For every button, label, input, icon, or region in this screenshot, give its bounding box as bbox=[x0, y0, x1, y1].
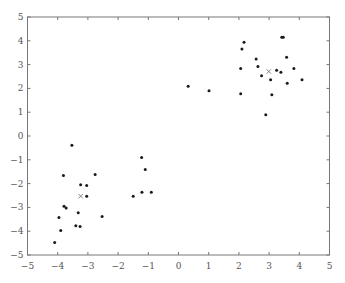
data-points bbox=[53, 36, 303, 244]
data-point bbox=[243, 41, 246, 44]
y-tick-label: −2 bbox=[10, 179, 23, 189]
x-tick-label: 2 bbox=[236, 261, 242, 271]
data-point bbox=[85, 195, 88, 198]
data-point bbox=[79, 183, 82, 186]
y-tick-label: −5 bbox=[10, 250, 24, 260]
y-axis-tick-labels: −5−4−3−2−1012345 bbox=[10, 12, 24, 260]
data-point bbox=[239, 92, 242, 95]
data-point bbox=[264, 113, 267, 116]
data-point bbox=[140, 156, 143, 159]
data-point bbox=[240, 47, 243, 50]
data-point bbox=[77, 211, 80, 214]
x-tick-label: 1 bbox=[206, 261, 212, 271]
y-tick-label: 3 bbox=[18, 60, 24, 70]
data-point bbox=[239, 67, 242, 70]
centroid-x-icon bbox=[78, 194, 82, 198]
y-tick-label: 1 bbox=[18, 107, 24, 117]
data-point bbox=[70, 144, 73, 147]
data-point bbox=[255, 57, 258, 60]
centroid-x-icon bbox=[267, 69, 271, 73]
x-tick-label: 4 bbox=[296, 261, 302, 271]
data-point bbox=[208, 89, 211, 92]
y-tick-label: 0 bbox=[18, 131, 24, 141]
y-tick-label: 2 bbox=[18, 83, 24, 93]
data-point bbox=[279, 71, 282, 74]
data-point bbox=[62, 174, 65, 177]
x-tick-label: −2 bbox=[111, 261, 124, 271]
data-point bbox=[286, 82, 289, 85]
x-tick-label: 3 bbox=[266, 261, 272, 271]
data-point bbox=[53, 241, 56, 244]
data-point bbox=[301, 78, 304, 81]
data-point bbox=[282, 36, 285, 39]
data-point bbox=[74, 224, 77, 227]
y-tick-label: 5 bbox=[18, 12, 24, 22]
data-point bbox=[260, 74, 263, 77]
y-tick-label: −4 bbox=[10, 226, 24, 236]
x-axis-tick-labels: −5−4−3−2−1012345 bbox=[21, 261, 333, 271]
centroid-markers bbox=[78, 69, 271, 198]
x-tick-label: 5 bbox=[327, 261, 333, 271]
data-point bbox=[144, 168, 147, 171]
data-point bbox=[79, 225, 82, 228]
data-point bbox=[65, 206, 68, 209]
data-point bbox=[285, 56, 288, 59]
y-tick-label: 4 bbox=[18, 36, 24, 46]
data-point bbox=[292, 67, 295, 70]
scatter-chart: −5−4−3−2−1012345 −5−4−3−2−1012345 bbox=[0, 0, 345, 283]
plot-frame bbox=[28, 17, 330, 255]
x-tick-label: 0 bbox=[176, 261, 182, 271]
data-point bbox=[256, 65, 259, 68]
data-point bbox=[150, 191, 153, 194]
x-tick-label: −1 bbox=[142, 261, 155, 271]
data-point bbox=[269, 78, 272, 81]
x-tick-label: −3 bbox=[81, 261, 95, 271]
y-tick-label: −3 bbox=[10, 202, 24, 212]
y-tick-label: −1 bbox=[10, 155, 23, 165]
x-tick-label: −5 bbox=[21, 261, 35, 271]
data-point bbox=[270, 93, 273, 96]
data-point bbox=[57, 216, 60, 219]
data-point bbox=[187, 85, 190, 88]
data-point bbox=[85, 184, 88, 187]
data-point bbox=[132, 195, 135, 198]
data-point bbox=[275, 69, 278, 72]
data-point bbox=[140, 191, 143, 194]
x-tick-label: −4 bbox=[51, 261, 65, 271]
data-point bbox=[94, 173, 97, 176]
data-point bbox=[101, 215, 104, 218]
axis-ticks bbox=[28, 17, 330, 255]
data-point bbox=[59, 229, 62, 232]
